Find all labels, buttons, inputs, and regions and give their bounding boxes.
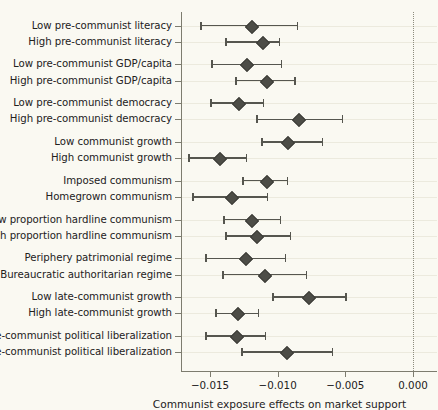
estimate-marker bbox=[256, 36, 270, 50]
zero-reference-line bbox=[413, 12, 414, 372]
x-axis-tick-label: −0.005 bbox=[315, 379, 375, 391]
ci-cap-lower bbox=[210, 99, 212, 107]
ci-cap-upper bbox=[306, 271, 308, 279]
category-label: Imposed communism bbox=[63, 175, 172, 186]
ci-cap-upper bbox=[342, 115, 344, 123]
ci-cap-lower bbox=[222, 271, 224, 279]
category-label: High late-communist growth bbox=[28, 307, 172, 318]
x-axis-line bbox=[181, 371, 437, 372]
ci-cap-lower bbox=[215, 309, 217, 317]
ci-cap-upper bbox=[267, 193, 269, 201]
ci-cap-upper bbox=[297, 22, 299, 30]
gridline bbox=[181, 42, 437, 43]
ci-cap-upper bbox=[279, 38, 281, 46]
estimate-marker bbox=[225, 191, 239, 205]
ci-cap-lower bbox=[205, 254, 207, 262]
y-axis-tick bbox=[175, 81, 181, 82]
ci-cap-lower bbox=[241, 348, 243, 356]
y-axis-tick bbox=[175, 158, 181, 159]
ci-cap-upper bbox=[280, 216, 282, 224]
ci-cap-upper bbox=[285, 254, 287, 262]
estimate-marker bbox=[245, 19, 259, 33]
ci-cap-upper bbox=[246, 154, 248, 162]
ci-cap-lower bbox=[188, 154, 190, 162]
ci-cap-lower bbox=[225, 38, 227, 46]
y-axis-tick bbox=[175, 258, 181, 259]
category-label: Bureaucratic authoritarian regime bbox=[0, 269, 172, 280]
category-label: High pre-communist GDP/capita bbox=[10, 75, 172, 86]
estimate-marker bbox=[213, 152, 227, 166]
y-axis-tick bbox=[175, 119, 181, 120]
category-label: High proportion hardline communism bbox=[0, 230, 172, 241]
x-axis-tick-label: −0.010 bbox=[248, 379, 308, 391]
estimate-marker bbox=[250, 230, 264, 244]
ci-cap-lower bbox=[192, 193, 194, 201]
ci-cap-upper bbox=[258, 309, 260, 317]
ci-cap-lower bbox=[205, 332, 207, 340]
category-label: Low pre-communist GDP/capita bbox=[13, 58, 172, 69]
y-axis-line bbox=[181, 12, 182, 372]
ci-cap-upper bbox=[265, 332, 267, 340]
estimate-marker bbox=[239, 252, 253, 266]
ci-cap-lower bbox=[200, 22, 202, 30]
y-axis-tick bbox=[175, 220, 181, 221]
estimate-marker bbox=[258, 269, 272, 283]
ci-cap-lower bbox=[242, 177, 244, 185]
ci-cap-upper bbox=[290, 232, 292, 240]
gridline bbox=[181, 181, 437, 182]
category-label: Low pre-communist literacy bbox=[32, 20, 172, 31]
estimate-marker bbox=[240, 58, 254, 72]
y-axis-tick bbox=[175, 197, 181, 198]
estimate-marker bbox=[302, 291, 316, 305]
category-label: Late-communist political liberalization bbox=[0, 346, 172, 357]
y-axis-tick bbox=[175, 142, 181, 143]
gridline bbox=[181, 275, 437, 276]
estimate-marker bbox=[230, 330, 244, 344]
category-label: Periphery patrimonial regime bbox=[24, 252, 172, 263]
ci-cap-lower bbox=[256, 115, 258, 123]
ci-cap-upper bbox=[345, 293, 347, 301]
gridline bbox=[181, 236, 437, 237]
ci-cap-upper bbox=[263, 99, 265, 107]
y-axis-tick bbox=[175, 313, 181, 314]
ci-cap-lower bbox=[211, 60, 213, 68]
x-axis-tick bbox=[278, 372, 279, 377]
x-axis-tick bbox=[345, 372, 346, 377]
estimate-marker bbox=[260, 175, 274, 189]
ci-cap-upper bbox=[294, 77, 296, 85]
category-label: Low communist growth bbox=[54, 136, 172, 147]
estimate-marker bbox=[280, 346, 294, 360]
category-label: Low late-communist growth bbox=[32, 291, 172, 302]
y-axis-tick bbox=[175, 26, 181, 27]
y-axis-tick bbox=[175, 42, 181, 43]
ci-cap-lower bbox=[223, 216, 225, 224]
estimate-marker bbox=[232, 97, 246, 111]
category-label: High pre-communist literacy bbox=[28, 36, 172, 47]
estimate-marker bbox=[231, 307, 245, 321]
y-axis-tick bbox=[175, 64, 181, 65]
x-axis-tick-label: −0.015 bbox=[180, 379, 240, 391]
ci-cap-lower bbox=[235, 77, 237, 85]
ci-cap-lower bbox=[261, 138, 263, 146]
x-axis-tick bbox=[413, 372, 414, 377]
estimate-marker bbox=[245, 213, 259, 227]
category-label: High communist growth bbox=[51, 152, 172, 163]
x-axis-tick-label: 0.000 bbox=[383, 379, 438, 391]
confidence-interval-line bbox=[225, 41, 280, 43]
y-axis-tick bbox=[175, 103, 181, 104]
ci-cap-upper bbox=[322, 138, 324, 146]
x-axis-title: Communist exposure effects on market sup… bbox=[0, 398, 438, 410]
estimate-marker bbox=[281, 136, 295, 150]
ci-cap-lower bbox=[272, 293, 274, 301]
category-label: High pre-communist democracy bbox=[10, 113, 172, 124]
estimate-marker bbox=[292, 113, 306, 127]
y-axis-tick bbox=[175, 336, 181, 337]
category-label: Homegrown communism bbox=[46, 191, 172, 202]
ci-cap-upper bbox=[281, 60, 283, 68]
category-label: No late-communist political liberalizati… bbox=[0, 330, 172, 341]
y-axis-tick bbox=[175, 236, 181, 237]
gridline bbox=[181, 81, 437, 82]
category-label: Low proportion hardline communism bbox=[0, 214, 172, 225]
